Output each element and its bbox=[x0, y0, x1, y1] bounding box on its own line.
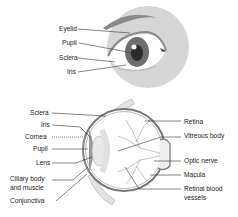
label-iris: Iris bbox=[41, 121, 50, 128]
label-conjunctiva: Conjunctiva bbox=[10, 197, 45, 205]
eye-anatomy-diagram: Eyelid Pupil Sclera Iris bbox=[0, 0, 238, 217]
label-sclera: Sclera bbox=[30, 109, 49, 116]
label-pupil: Pupil bbox=[62, 39, 77, 47]
label-lens: Lens bbox=[36, 159, 51, 166]
label-pupil: Pupil bbox=[33, 145, 48, 153]
label-ciliary-body: Ciliary body bbox=[10, 175, 45, 183]
external-eye-illustration bbox=[103, 6, 189, 88]
label-macula: Macula bbox=[184, 171, 206, 178]
label-ciliary-muscle: and muscle bbox=[10, 184, 44, 191]
label-cornea: Cornea bbox=[25, 133, 47, 140]
label-vitreous-body: Vitreous body bbox=[184, 132, 225, 140]
label-sclera-external: Sclera bbox=[59, 54, 78, 61]
label-eyelid: Eyelid bbox=[59, 25, 77, 33]
label-retina: Retina bbox=[184, 118, 203, 125]
label-optic-nerve: Optic nerve bbox=[184, 157, 218, 165]
label-iris-external: Iris bbox=[67, 68, 76, 75]
label-retinal-blood: Retinal blood bbox=[184, 185, 223, 192]
label-retinal-vessels: vessels bbox=[184, 194, 207, 201]
